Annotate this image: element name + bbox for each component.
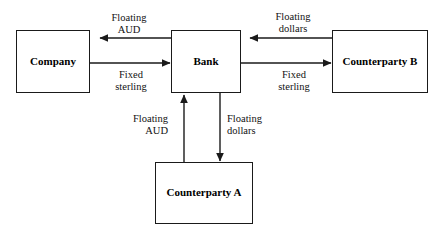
node-company: Company: [16, 30, 90, 93]
node-counterparty-b: Counterparty B: [332, 30, 428, 93]
node-bank: Bank: [171, 30, 241, 93]
flow-label-bank-to-counterparty-a: Floating dollars: [227, 113, 293, 138]
flow-label-counterparty-a-to-bank: Floating AUD: [106, 113, 168, 138]
node-counterparty-a: Counterparty A: [155, 162, 253, 224]
flow-label-bank-to-counterparty-b: Fixed sterling: [263, 69, 325, 94]
flow-label-counterparty-b-to-bank: Floating dollars: [260, 11, 326, 36]
flow-label-company-to-bank: Fixed sterling: [100, 69, 162, 94]
flow-label-bank-to-company: Floating AUD: [98, 12, 160, 37]
diagram-canvas: Company Bank Counterparty B Counterparty…: [0, 0, 447, 238]
